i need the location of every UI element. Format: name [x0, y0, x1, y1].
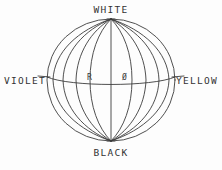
meridian-arc-4	[90, 19, 111, 141]
label-inner-o: Ø	[122, 74, 127, 82]
meridian-arc-7	[111, 19, 146, 141]
label-yellow: YELLOW	[176, 76, 218, 86]
label-black: BLACK	[0, 148, 222, 158]
label-white: WHITE	[0, 5, 222, 15]
meridian-arc-3	[76, 19, 111, 141]
meridian-arc-8	[111, 19, 159, 141]
label-inner-r: R	[87, 74, 92, 82]
color-sphere-figure: WHITE BLACK VIOLET YELLOW R Ø	[0, 0, 222, 170]
label-violet: VIOLET	[4, 76, 46, 86]
